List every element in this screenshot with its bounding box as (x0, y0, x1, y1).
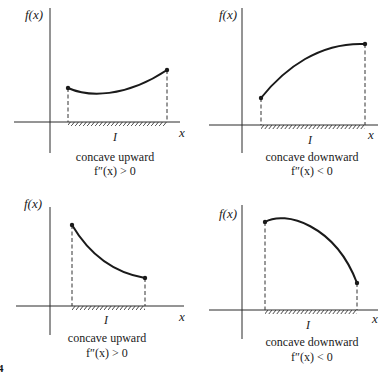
panel-top-right: f(x) x I concave downward f″(x) < 0 (209, 7, 378, 178)
caption-concavity: concave downward (266, 335, 359, 349)
caption-second-derivative: f″(x) > 0 (86, 346, 128, 360)
endpoint-dot (143, 276, 147, 280)
endpoint-dot (70, 223, 74, 227)
x-axis-label: x (178, 309, 185, 324)
panel-bottom-left: f(x) x I concave upward f″(x) > 0 (16, 196, 185, 360)
caption-second-derivative: f″(x) < 0 (291, 350, 333, 364)
caption-concavity: concave downward (266, 150, 359, 164)
endpoint-dot (355, 281, 359, 285)
caption-second-derivative: f″(x) < 0 (291, 164, 333, 178)
function-curve (265, 218, 357, 283)
endpoint-dot (165, 68, 169, 72)
y-axis-label: f(x) (219, 7, 237, 22)
endpoint-dot (363, 42, 367, 46)
caption-concavity: concave upward (76, 150, 154, 164)
caption-second-derivative: f″(x) > 0 (94, 164, 136, 178)
x-axis-label: x (367, 127, 374, 142)
function-curve (261, 44, 365, 98)
interval-label: I (112, 130, 118, 144)
x-axis-label: x (371, 311, 378, 326)
interval-hatching (72, 306, 145, 310)
panel-top-left: f(x) x I concave upward f″(x) > 0 (14, 7, 185, 178)
interval-label: I (307, 133, 313, 147)
y-axis-label: f(x) (25, 7, 43, 22)
interval-hatching (68, 122, 167, 126)
endpoint-dot (66, 86, 70, 90)
endpoint-dot (263, 220, 267, 224)
interval-hatching (261, 125, 365, 129)
y-axis-label: f(x) (219, 206, 237, 221)
interval-hatching (265, 310, 357, 314)
y-axis-label: f(x) (24, 196, 42, 211)
function-curve (72, 225, 145, 278)
x-axis-label: x (178, 125, 185, 140)
interval-label: I (103, 313, 109, 327)
panel-bottom-right: f(x) x I concave downward f″(x) < 0 (209, 205, 378, 364)
function-curve (68, 70, 167, 94)
concavity-figure: f(x) x I concave upward f″(x) > 0 f(x) x… (0, 0, 391, 375)
figure-number-fragment: 4 (0, 362, 4, 374)
interval-label: I (305, 318, 311, 332)
endpoint-dot (259, 96, 263, 100)
caption-concavity: concave upward (68, 331, 146, 345)
